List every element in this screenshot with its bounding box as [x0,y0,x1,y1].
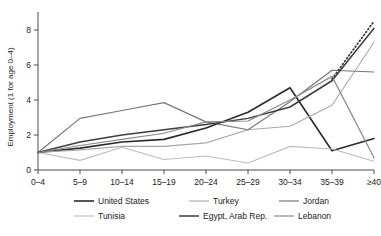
chart-figure: Employment (1 for age 0–4) 02468 0–45–91… [0,0,381,236]
x-tick-label: 35–39 [320,177,344,187]
x-tick-label: 5–9 [73,177,87,187]
y-tick-label: 2 [26,130,31,140]
legend-label-tunisia: Tunisia [98,211,125,221]
x-axis: 0–45–910–1415–1920–2425–2930–3435–39≥40 [31,170,381,187]
series-line-projection [332,21,374,79]
legend-label-united-states: United States [98,196,149,206]
employment-by-firm-age-line-chart: Employment (1 for age 0–4) 02468 0–45–91… [0,0,381,236]
series-line-egypt-arab-rep [38,28,374,152]
y-axis-title: Employment (1 for age 0–4) [6,47,15,146]
y-tick-label: 4 [26,95,31,105]
chart-legend: United StatesTurkeyJordanTunisiaEgypt, A… [74,196,331,221]
x-tick-label: 30–34 [278,177,302,187]
legend-label-jordan: Jordan [303,196,329,206]
y-axis-title-label: Employment (1 for age 0–4) [6,47,15,146]
y-axis: 02468 [26,12,38,175]
legend-label-lebanon: Lebanon [298,211,331,221]
y-tick-label: 0 [26,165,31,175]
x-tick-label: 0–4 [31,177,45,187]
x-tick-label: ≥40 [367,177,381,187]
plot-area-series [38,21,374,163]
x-tick-label: 20–24 [194,177,218,187]
y-tick-label: 6 [26,60,31,70]
legend-label-egypt-arab-rep: Egypt, Arab Rep. [203,211,267,221]
y-tick-label: 8 [26,25,31,35]
legend-label-turkey: Turkey [213,196,239,206]
x-tick-label: 15–19 [152,177,176,187]
x-tick-label: 10–14 [110,177,134,187]
series-line-turkey [38,42,374,152]
x-tick-label: 25–29 [236,177,260,187]
